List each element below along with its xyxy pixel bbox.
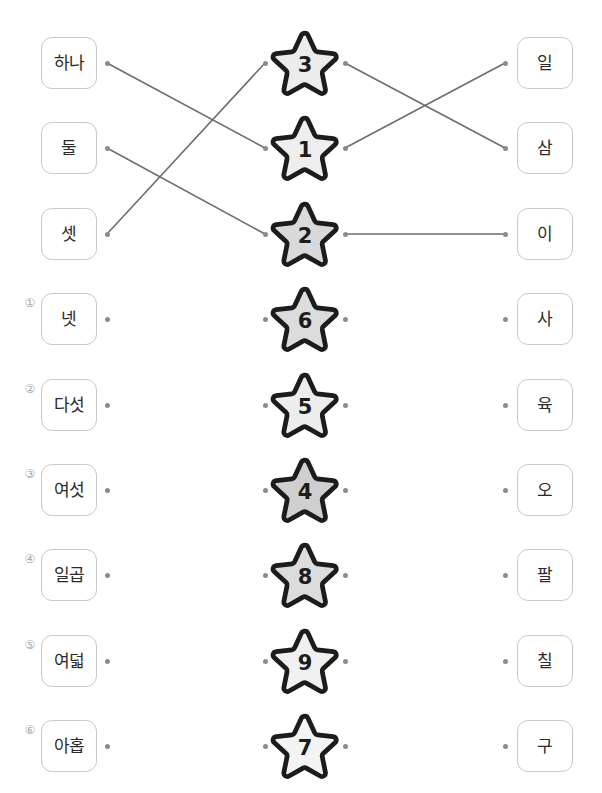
right-word-label: 오 [537,482,553,499]
left-word-label: 여덟 [54,653,85,670]
star-left-connection-dot[interactable] [263,61,268,66]
left-word-box[interactable]: 셋 [41,208,97,260]
left-word-box[interactable]: 일곱 [41,549,97,601]
left-word-box[interactable]: 여섯 [41,464,97,516]
left-connection-dot[interactable] [105,403,110,408]
star-shape: 9 [271,628,339,694]
row-index-marker: ③ [22,466,38,482]
left-word-box[interactable]: 아홉 [41,720,97,772]
right-word-box[interactable]: 일 [517,37,573,89]
star-number-label: 8 [271,542,339,608]
left-connection-dot[interactable] [105,317,110,322]
star-number-label: 1 [271,115,339,181]
star-right-connection-dot[interactable] [343,232,348,237]
right-connection-dot[interactable] [503,403,508,408]
right-word-label: 육 [537,397,553,414]
right-word-box[interactable]: 오 [517,464,573,516]
left-word-label: 다섯 [54,397,85,414]
left-word-label: 둘 [61,140,77,157]
row-index-marker: ④ [22,551,38,567]
right-word-box[interactable]: 육 [517,379,573,431]
left-connection-dot[interactable] [105,61,110,66]
right-word-box[interactable]: 칠 [517,635,573,687]
star-left-connection-dot[interactable] [263,659,268,664]
right-word-label: 칠 [537,653,553,670]
left-word-label: 넷 [61,311,77,328]
left-word-box[interactable]: 넷 [41,293,97,345]
star-right-connection-dot[interactable] [343,317,348,322]
star-right-connection-dot[interactable] [343,403,348,408]
left-word-box[interactable]: 하나 [41,37,97,89]
star-right-connection-dot[interactable] [343,488,348,493]
star-shape: 1 [271,115,339,181]
left-connection-dot[interactable] [105,744,110,749]
star-number-label: 6 [271,286,339,352]
left-connection-dot[interactable] [105,573,110,578]
left-connection-dot[interactable] [105,146,110,151]
star-shape: 3 [271,30,339,96]
star-right-connection-dot[interactable] [343,61,348,66]
right-connection-dot[interactable] [503,744,508,749]
left-connection-dot[interactable] [105,488,110,493]
left-connection-dot[interactable] [105,659,110,664]
star-number-label: 2 [271,201,339,267]
left-word-box[interactable]: 둘 [41,122,97,174]
right-connection-dot[interactable] [503,61,508,66]
right-word-label: 구 [537,738,553,755]
right-word-box[interactable]: 삼 [517,122,573,174]
answer-connection-line [107,63,265,234]
star-number-label: 9 [271,628,339,694]
star-left-connection-dot[interactable] [263,232,268,237]
answer-connection-line [345,63,505,148]
left-word-label: 일곱 [54,567,85,584]
answer-connection-line [107,148,265,234]
star-left-connection-dot[interactable] [263,744,268,749]
right-connection-dot[interactable] [503,659,508,664]
right-word-box[interactable]: 구 [517,720,573,772]
row-index-marker: ① [22,295,38,311]
star-left-connection-dot[interactable] [263,403,268,408]
star-right-connection-dot[interactable] [343,146,348,151]
star-number-label: 3 [271,30,339,96]
row-index-marker: ⑤ [22,637,38,653]
left-word-box[interactable]: 여덟 [41,635,97,687]
right-word-box[interactable]: 사 [517,293,573,345]
star-shape: 8 [271,542,339,608]
right-connection-dot[interactable] [503,488,508,493]
left-word-box[interactable]: 다섯 [41,379,97,431]
answer-connection-line [345,63,505,148]
left-connection-dot[interactable] [105,232,110,237]
right-word-label: 삼 [537,140,553,157]
row-index-marker: ⑥ [22,722,38,738]
star-shape: 7 [271,713,339,779]
right-word-box[interactable]: 팔 [517,549,573,601]
star-left-connection-dot[interactable] [263,573,268,578]
star-right-connection-dot[interactable] [343,659,348,664]
left-word-label: 셋 [61,226,77,243]
star-shape: 2 [271,201,339,267]
worksheet-page: 하나3일둘1삼셋2이①넷6사②다섯5육③여섯4오④일곱8팔⑤여덟9칠⑥아홉7구 [0,0,602,793]
star-left-connection-dot[interactable] [263,488,268,493]
right-word-label: 팔 [537,567,553,584]
star-number-label: 7 [271,713,339,779]
star-shape: 6 [271,286,339,352]
star-left-connection-dot[interactable] [263,317,268,322]
star-number-label: 4 [271,457,339,523]
star-right-connection-dot[interactable] [343,744,348,749]
row-index-marker: ② [22,381,38,397]
right-word-label: 일 [537,55,553,72]
answer-connection-line [107,63,265,148]
right-word-label: 사 [537,311,553,328]
left-word-label: 하나 [54,55,85,72]
star-left-connection-dot[interactable] [263,146,268,151]
left-word-label: 아홉 [54,738,85,755]
right-connection-dot[interactable] [503,232,508,237]
star-right-connection-dot[interactable] [343,573,348,578]
right-word-label: 이 [537,226,553,243]
right-connection-dot[interactable] [503,146,508,151]
star-number-label: 5 [271,372,339,438]
right-connection-dot[interactable] [503,573,508,578]
star-shape: 4 [271,457,339,523]
right-word-box[interactable]: 이 [517,208,573,260]
right-connection-dot[interactable] [503,317,508,322]
